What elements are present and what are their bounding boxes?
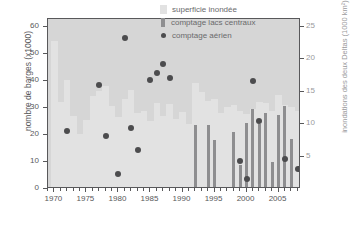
data-point-comptage-aerien [160, 61, 166, 67]
bar-comptage-lacs-centraux [277, 115, 280, 187]
legend-item-comptage-lacs-centraux: comptage lacs centraux [160, 17, 256, 28]
x-tick-minor [60, 188, 61, 191]
y-tick-label-left: 40 [19, 75, 39, 84]
y-tick-label-left: 20 [19, 129, 39, 138]
y-tick-label-right: 10 [306, 118, 328, 127]
x-tick-minor [220, 188, 221, 191]
x-tick-minor [79, 188, 80, 191]
y-axis-right-title: inondations des deux Deltas (1000 km²) [340, 0, 349, 147]
x-tick-minor [258, 188, 259, 191]
x-tick-minor [265, 188, 266, 191]
y-tick-label-left: 10 [19, 156, 39, 165]
x-tick-minor [194, 188, 195, 191]
x-tick-minor [98, 188, 99, 191]
data-point-comptage-aerien [147, 77, 153, 83]
x-tick-minor [175, 188, 176, 191]
legend-label: comptage lacs centraux [171, 18, 256, 27]
x-tick-minor [233, 188, 234, 191]
x-tick-minor [162, 188, 163, 191]
x-tick-label: 2005 [261, 194, 295, 203]
x-tick-major [53, 188, 54, 192]
data-point-comptage-aerien [295, 166, 300, 172]
legend-circle-icon [161, 33, 166, 38]
x-tick-label: 1990 [165, 194, 199, 203]
bar-comptage-lacs-centraux [271, 162, 274, 187]
data-point-comptage-aerien [135, 147, 141, 153]
x-tick-minor [252, 188, 253, 191]
y-tick-label-left: 50 [19, 48, 39, 57]
data-point-comptage-aerien [96, 82, 102, 88]
y-tick-label-right: 15 [306, 86, 328, 95]
bar-comptage-lacs-centraux [239, 165, 242, 187]
x-tick-minor [226, 188, 227, 191]
legend-label: superficie inondée [172, 5, 237, 14]
x-tick-major [182, 188, 183, 192]
y-tick-label-right: 5 [306, 151, 328, 160]
x-tick-minor [297, 188, 298, 191]
x-tick-minor [111, 188, 112, 191]
data-point-comptage-aerien [154, 70, 160, 76]
x-tick-major [117, 188, 118, 192]
x-tick-minor [130, 188, 131, 191]
bar-superficie-inondee [295, 111, 300, 187]
data-point-comptage-aerien [244, 176, 250, 182]
x-tick-label: 2000 [229, 194, 263, 203]
data-point-comptage-aerien [282, 156, 288, 162]
x-tick-major [246, 188, 247, 192]
x-tick-minor [207, 188, 208, 191]
x-tick-minor [124, 188, 125, 191]
y-tick-label-right: 25 [306, 21, 328, 30]
x-tick-minor [156, 188, 157, 191]
y-tick-right [300, 123, 304, 124]
data-point-comptage-aerien [250, 78, 256, 84]
y-tick-right [300, 26, 304, 27]
data-point-comptage-aerien [167, 75, 173, 81]
x-tick-minor [284, 188, 285, 191]
legend: superficie inondée comptage lacs centrau… [160, 4, 256, 41]
y-tick-label-left: 0 [19, 183, 39, 192]
x-tick-label: 1975 [68, 194, 102, 203]
data-point-comptage-aerien [122, 35, 128, 41]
x-tick-minor [73, 188, 74, 191]
bar-comptage-lacs-centraux [258, 124, 261, 187]
bar-comptage-lacs-centraux [194, 125, 197, 187]
x-tick-minor [137, 188, 138, 191]
x-tick-minor [169, 188, 170, 191]
x-tick-minor [188, 188, 189, 191]
x-tick-label: 1980 [100, 194, 134, 203]
y-tick-label-left: 30 [19, 102, 39, 111]
bar-comptage-lacs-centraux [232, 132, 235, 187]
legend-item-comptage-aerien: comptage aérien [160, 30, 256, 41]
x-tick-label: 1970 [36, 194, 70, 203]
legend-item-superficie-inondee: superficie inondée [160, 4, 256, 15]
x-tick-major [214, 188, 215, 192]
x-tick-major [149, 188, 150, 192]
x-tick-major [278, 188, 279, 192]
bar-comptage-lacs-centraux [251, 109, 254, 187]
x-tick-major [85, 188, 86, 192]
x-tick-minor [105, 188, 106, 191]
y-tick-label-left: 60 [19, 21, 39, 30]
bar-comptage-lacs-centraux [207, 125, 210, 187]
x-tick-minor [47, 188, 48, 191]
bar-comptage-lacs-centraux [283, 106, 286, 187]
x-tick-label: 1985 [132, 194, 166, 203]
bar-comptage-lacs-centraux [264, 113, 267, 187]
legend-bar-icon [161, 18, 165, 27]
data-point-comptage-aerien [103, 133, 109, 139]
x-tick-minor [92, 188, 93, 191]
plot-area [47, 18, 300, 188]
y-tick-right [300, 156, 304, 157]
legend-label: comptage aérien [172, 31, 232, 40]
chart-figure: nombre de barges (x1000) inondations des… [0, 0, 355, 226]
x-tick-minor [66, 188, 67, 191]
x-tick-minor [271, 188, 272, 191]
y-tick-right [300, 91, 304, 92]
y-tick-right [300, 58, 304, 59]
x-tick-minor [239, 188, 240, 191]
x-tick-minor [201, 188, 202, 191]
bar-comptage-lacs-centraux [290, 139, 293, 187]
x-tick-minor [290, 188, 291, 191]
x-tick-label: 1995 [197, 194, 231, 203]
x-tick-minor [143, 188, 144, 191]
